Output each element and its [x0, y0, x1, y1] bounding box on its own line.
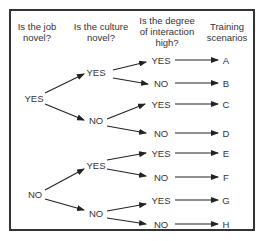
scenario-c: C [223, 99, 230, 110]
node-culture-no-2: NO [89, 208, 103, 219]
node-interaction-yes-4: YES [151, 195, 170, 206]
scenario-e: E [223, 148, 229, 159]
scenario-b: B [223, 78, 229, 89]
node-culture-yes-1: YES [86, 67, 105, 78]
scenario-d: D [223, 128, 230, 139]
node-interaction-no-1: NO [154, 78, 168, 89]
node-job-yes: YES [24, 93, 43, 104]
node-culture-no-1: NO [89, 115, 103, 126]
node-interaction-yes-2: YES [151, 99, 170, 110]
scenario-h: H [223, 219, 230, 230]
node-interaction-no-3: NO [154, 172, 168, 183]
node-interaction-no-4: NO [154, 219, 168, 230]
scenario-g: G [222, 195, 229, 206]
node-interaction-no-2: NO [154, 128, 168, 139]
scenario-f: F [223, 172, 229, 183]
scenario-a: A [223, 55, 229, 66]
node-job-no: NO [28, 189, 42, 200]
node-interaction-yes-3: YES [151, 148, 170, 159]
node-interaction-yes-1: YES [151, 55, 170, 66]
node-culture-yes-2: YES [86, 160, 105, 171]
